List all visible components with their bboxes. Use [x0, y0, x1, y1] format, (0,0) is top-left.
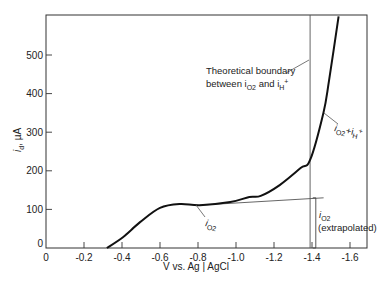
current-voltage-curve [107, 16, 339, 248]
extrapolated-bracket [313, 198, 316, 248]
y-axis-title: id, µA [12, 128, 25, 152]
y-tick-label: 100 [26, 204, 43, 215]
y-axis-ticks: 0100200300400500 [26, 50, 52, 250]
boundary-label-line2: between iO2 and iH+ [206, 78, 288, 91]
io2-leader-line [196, 205, 205, 217]
x-tick-label: -1.4 [303, 252, 321, 263]
y-tick-label: 500 [26, 50, 43, 61]
x-tick-label: -1.0 [227, 252, 245, 263]
boundary-label-line1: Theoretical boundary [206, 65, 295, 76]
x-axis-ticks: 0-0.2-0.4-0.6-0.8-1.0-1.2-1.4-1.6 [43, 242, 359, 263]
x-tick-label: -1.2 [265, 252, 283, 263]
extrapolated-label-line1: iO2 [319, 209, 331, 222]
x-tick-label: -1.6 [341, 252, 359, 263]
x-tick-label: 0 [43, 252, 49, 263]
y-tick-label: 300 [26, 127, 43, 138]
y-tick-label: 0 [37, 238, 43, 249]
polarogram-chart: 0-0.2-0.4-0.6-0.8-1.0-1.2-1.4-1.6 010020… [0, 0, 381, 284]
y-tick-label: 200 [26, 165, 43, 176]
x-axis-title: V vs. Ag | AgCl [163, 261, 229, 272]
y-tick-label: 400 [26, 88, 43, 99]
x-tick-label: -0.2 [75, 252, 93, 263]
extrapolated-label-line2: (extrapolated) [318, 222, 377, 233]
io2-label: iO2 [204, 217, 218, 232]
sum-current-label: iO2+iH+ [333, 122, 363, 141]
x-tick-label: -0.4 [113, 252, 131, 263]
